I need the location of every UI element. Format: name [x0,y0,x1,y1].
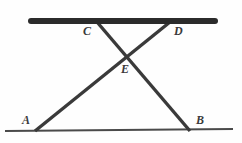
geometry-figure-canvas: C D E A B [0,0,242,143]
vertex-label-c: C [83,25,91,37]
vertex-label-a: A [22,114,30,126]
segment-D-to-A [35,22,170,131]
segment-C-to-B [97,22,190,131]
vertex-label-e: E [121,63,129,75]
vertex-label-b: B [196,114,204,126]
vertex-label-d: D [174,25,183,37]
